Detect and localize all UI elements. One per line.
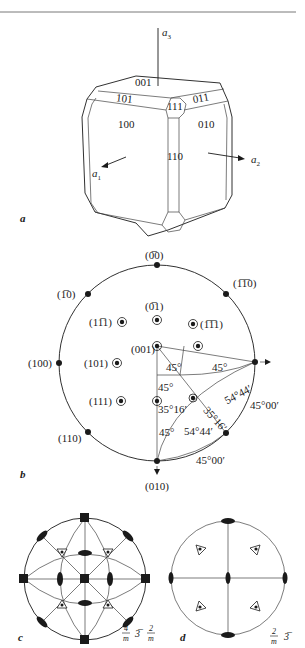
figure-d-tag: d: [180, 631, 186, 643]
angle-label: 45°: [166, 361, 181, 373]
svg-text:m: m: [148, 634, 154, 643]
a2-axis-arrow: [208, 153, 240, 158]
pole-label-010: (010): [145, 480, 169, 493]
angle-label: 45°00′: [196, 454, 225, 466]
svg-text:2: 2: [272, 627, 276, 636]
svg-text:3̅: 3̅: [134, 628, 144, 639]
angle-label: 45°: [212, 361, 227, 373]
pole-label-111: (111): [89, 395, 112, 408]
svg-text:m: m: [271, 637, 277, 646]
figure-b-tag: b: [20, 468, 26, 480]
crystal-outline: [82, 76, 232, 236]
pole-label-0-11: (0̅1): [145, 300, 164, 313]
fourfold-axis-icon: [19, 513, 150, 644]
symmetry-stereogram-c: 4 m 3̅ 2 m: [19, 513, 155, 644]
pole-label-1-11: (11̅1): [89, 316, 112, 329]
face-001-label: 001: [135, 76, 152, 88]
pole-label-101: (101): [84, 357, 108, 370]
pole-label-110: (110): [58, 432, 82, 445]
angle-label: 54°44′: [184, 425, 213, 437]
a2-axis-label: a2: [251, 153, 261, 168]
svg-text:2: 2: [149, 624, 153, 633]
pole-label-100: (100): [28, 357, 52, 370]
face-111-label: 111: [167, 100, 183, 112]
figure-c-tag: c: [18, 631, 23, 643]
svg-text:3̅: 3̅: [283, 631, 293, 642]
crystal-drawing: a3 001 101 111 011 100 010 110 a1: [82, 26, 261, 236]
face-101-label: 101: [116, 91, 134, 105]
a1-axis-label: a1: [92, 167, 102, 182]
pole-label-m1-m10: (1̅1̅0): [233, 277, 257, 290]
face-110-label: 110: [167, 150, 184, 162]
figure-a-tag: a: [20, 212, 26, 224]
pole-label-0-10: (0̅0): [145, 249, 164, 262]
angle-label: 45°: [158, 381, 173, 393]
face-010-label: 010: [198, 118, 215, 130]
angle-label: 54°44′: [222, 382, 253, 406]
angle-label: 45°: [159, 426, 174, 438]
stereogram-b: (0̅0) (1̅0) (1̅1̅0) (0̅1) (11̅1) (1̅1̅1)…: [28, 249, 279, 493]
pole-label-m1-m11: (1̅1̅1): [200, 318, 223, 331]
face-011-label: 011: [192, 91, 210, 106]
svg-text:m: m: [123, 634, 129, 643]
pole-label-1-10: (1̅0): [57, 288, 76, 301]
symmetry-stereogram-d: 2 m 3̅: [169, 518, 294, 646]
svg-text:4: 4: [124, 624, 128, 633]
pole-label-001: (001): [131, 343, 155, 356]
crystallography-figure: a3 001 101 111 011 100 010 110 a1: [0, 0, 305, 648]
a3-axis-label: a3: [162, 26, 172, 41]
angle-label: 45°00′: [250, 399, 279, 411]
face-100-label: 100: [118, 118, 135, 130]
angle-label: 35°16′: [158, 403, 187, 415]
